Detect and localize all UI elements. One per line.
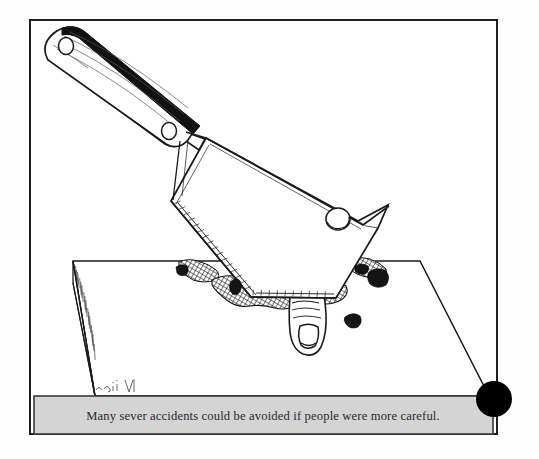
black-dot — [476, 381, 512, 417]
handle-rivet — [59, 38, 74, 55]
handle-rivet — [162, 123, 177, 140]
caption-box: Many sever accidents could be avoided if… — [34, 396, 493, 434]
cartoon-page: Many sever accidents could be avoided if… — [0, 0, 539, 459]
hanging-hole — [326, 208, 350, 230]
caption-label: Many sever accidents could be avoided if… — [86, 409, 440, 423]
cartoon-illustration: Many sever accidents could be avoided if… — [0, 0, 539, 459]
